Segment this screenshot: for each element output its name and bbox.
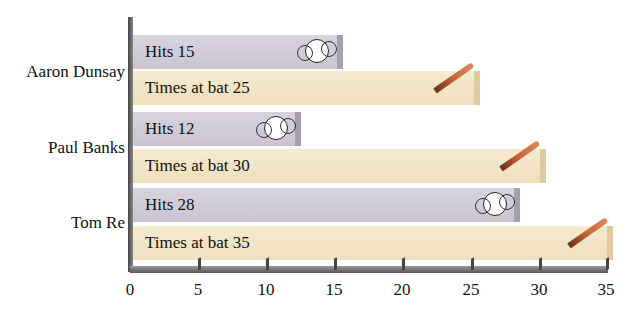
x-axis [130, 266, 608, 273]
bar-label: Times at bat 30 [145, 156, 250, 176]
x-tick [334, 257, 337, 271]
bar-label: Times at bat 35 [145, 233, 250, 253]
x-tick-label: 30 [531, 280, 548, 300]
baseball-bat-icon [567, 217, 608, 248]
bar-label: Hits 12 [145, 119, 195, 139]
x-tick-label: 10 [258, 280, 275, 300]
bar-label: Times at bat 25 [145, 78, 250, 98]
x-tick [471, 257, 474, 271]
chart: Aaron Dunsay Paul Banks Tom Re Hits 15 T… [0, 0, 630, 312]
x-tick-label: 35 [598, 280, 615, 300]
category-label: Tom Re [71, 213, 125, 233]
x-tick-label: 15 [326, 280, 343, 300]
x-tick [402, 257, 405, 271]
category-label: Paul Banks [48, 138, 125, 158]
x-tick [606, 257, 609, 271]
baseball-icon [264, 116, 288, 140]
x-tick-label: 0 [126, 280, 135, 300]
baseball-bat-icon [499, 140, 540, 171]
category-label: Aaron Dunsay [26, 62, 125, 82]
bar-label: Hits 15 [145, 42, 195, 62]
x-tick [539, 257, 542, 271]
x-tick-label: 25 [463, 280, 480, 300]
x-tick [198, 257, 201, 271]
bar-atbat-aaron: Times at bat 25 [133, 71, 480, 105]
bar-atbat-paul: Times at bat 30 [133, 149, 546, 183]
bar-hits-paul: Hits 12 [133, 112, 301, 146]
x-tick-label: 5 [194, 280, 203, 300]
baseball-bat-icon [433, 62, 474, 93]
bar-hits-tom: Hits 28 [133, 188, 520, 222]
bar-atbat-tom: Times at bat 35 [133, 226, 613, 260]
bar-hits-aaron: Hits 15 [133, 35, 343, 69]
x-tick-label: 20 [394, 280, 411, 300]
baseball-icon [483, 192, 507, 216]
bar-label: Hits 28 [145, 195, 195, 215]
x-tick [266, 257, 269, 271]
baseball-icon [305, 39, 329, 63]
